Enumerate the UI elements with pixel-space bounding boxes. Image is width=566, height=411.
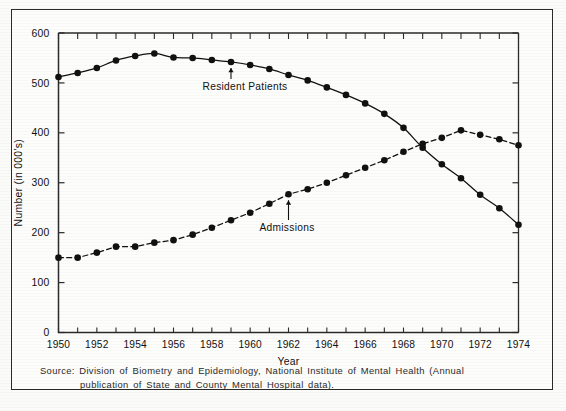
data-point — [496, 205, 503, 212]
x-tick-label: 1962 — [277, 339, 301, 350]
data-point — [209, 57, 216, 64]
x-tick-label: 1972 — [468, 339, 492, 350]
x-tick-label: 1954 — [123, 339, 147, 350]
x-tick-label: 1956 — [162, 339, 186, 350]
data-point — [477, 191, 484, 198]
data-point — [209, 224, 216, 231]
data-point — [419, 141, 426, 148]
data-point — [285, 72, 292, 79]
data-point — [170, 237, 177, 244]
annotation-arrow-head — [286, 200, 291, 204]
data-point — [362, 100, 369, 107]
x-tick-label: 1970 — [430, 339, 454, 350]
data-point — [55, 254, 62, 261]
data-point — [439, 135, 446, 142]
data-point — [496, 136, 503, 143]
data-point — [400, 149, 407, 156]
data-point — [247, 209, 254, 216]
data-point — [458, 175, 465, 182]
y-tick-label: 600 — [32, 28, 50, 39]
data-point — [343, 172, 350, 179]
data-point — [324, 179, 331, 186]
data-point — [132, 53, 139, 60]
data-point — [266, 66, 273, 73]
figure-container: 1950195219541956195819601962196419661968… — [0, 0, 566, 411]
y-tick-label: 0 — [44, 327, 50, 338]
y-tick-label: 300 — [32, 177, 50, 188]
y-tick-label: 200 — [32, 227, 50, 238]
annotation-label: Admissions — [259, 222, 314, 233]
data-point — [266, 200, 273, 207]
caption-line-1: Source: Division of Biometry and Epidemi… — [40, 364, 530, 378]
source-caption: Source: Division of Biometry and Epidemi… — [40, 364, 530, 392]
data-point — [247, 62, 254, 69]
data-point — [132, 243, 139, 250]
data-point — [362, 164, 369, 171]
data-point — [477, 132, 484, 139]
series-line-resident-patients — [59, 53, 519, 224]
data-point — [94, 65, 101, 72]
data-point — [458, 127, 465, 134]
x-tick-label: 1960 — [238, 339, 262, 350]
data-point — [189, 55, 196, 62]
data-point — [381, 111, 388, 118]
data-point — [515, 221, 522, 228]
data-point — [189, 231, 196, 238]
y-axis-title: Number (in 000's) — [13, 139, 24, 226]
data-point — [228, 217, 235, 224]
caption-line-2: publication of State and County Mental H… — [40, 378, 530, 392]
x-tick-label: 1966 — [353, 339, 377, 350]
data-point — [285, 191, 292, 198]
x-tick-label: 1950 — [47, 339, 71, 350]
annotation-resident-patients: Resident Patients — [203, 68, 288, 92]
annotation-label: Resident Patients — [203, 81, 288, 92]
y-tick-label: 500 — [32, 78, 50, 89]
data-point — [94, 249, 101, 256]
data-point — [381, 157, 388, 164]
data-point — [55, 74, 62, 81]
data-point — [74, 70, 81, 77]
data-point — [113, 57, 120, 64]
data-point — [151, 50, 158, 57]
y-tick-label: 400 — [32, 127, 50, 138]
data-point — [400, 125, 407, 132]
data-point — [439, 161, 446, 168]
data-point — [151, 239, 158, 246]
x-tick-label: 1968 — [392, 339, 416, 350]
data-point — [74, 254, 81, 261]
data-point — [304, 186, 311, 193]
x-tick-label: 1974 — [507, 339, 531, 350]
x-tick-label: 1964 — [315, 339, 339, 350]
data-point — [343, 92, 350, 99]
data-point — [113, 243, 120, 250]
x-tick-label: 1958 — [200, 339, 224, 350]
data-point — [170, 54, 177, 61]
annotation-arrow-head — [228, 68, 233, 72]
data-point — [515, 142, 522, 149]
data-point — [228, 59, 235, 66]
data-point — [324, 84, 331, 91]
data-point — [304, 77, 311, 84]
x-tick-label: 1952 — [85, 339, 109, 350]
y-tick-label: 100 — [32, 277, 50, 288]
line-chart: 1950195219541956195819601962196419661968… — [0, 0, 566, 411]
